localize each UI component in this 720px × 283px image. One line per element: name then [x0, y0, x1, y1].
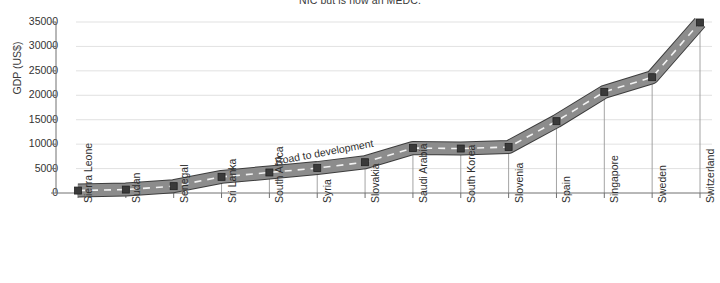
x-tick-label: Singapore	[608, 155, 620, 203]
x-tick-label: Sweden	[656, 165, 668, 203]
x-tick-label: Switzerland	[704, 149, 716, 203]
x-tick-label: Sudan	[130, 173, 142, 203]
x-tick-label: Spain	[560, 176, 572, 203]
x-tick-label: Senegal	[178, 164, 190, 203]
gdp-road-chart: NIC but is now an MEDC. GDP (US$) 050001…	[0, 0, 720, 283]
x-tick-label: Syria	[321, 179, 333, 203]
x-tick-label: Slovenia	[513, 163, 525, 203]
x-tick-label: Saudi Arabia	[417, 143, 429, 203]
x-tick-label: South Korea	[465, 145, 477, 203]
x-tick-label: Sierra Leone	[82, 143, 94, 203]
x-tick-label: Sri Lanka	[226, 159, 238, 203]
x-tick-label: Slovakia	[369, 163, 381, 203]
